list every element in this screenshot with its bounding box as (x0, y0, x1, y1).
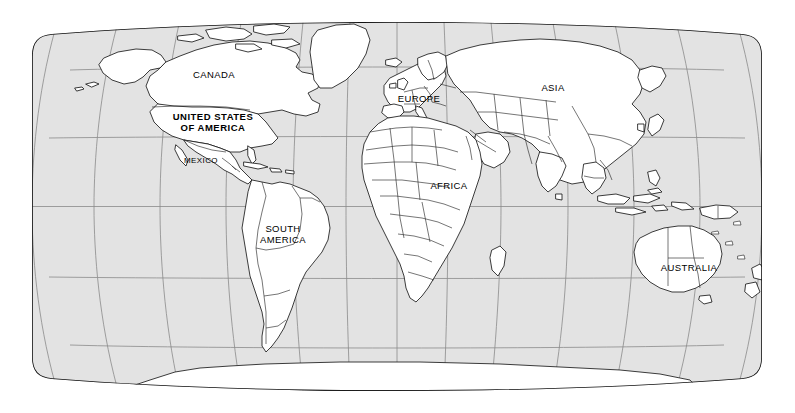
world-map-svg (0, 0, 795, 413)
world-map: CANADAUNITED STATES OF AMERICAMEXICOSOUT… (0, 0, 795, 413)
